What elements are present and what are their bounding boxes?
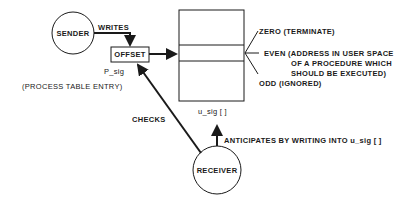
usig-caption: u_sig [ ] (198, 107, 227, 116)
usig-array-box (179, 10, 244, 101)
offset-label: OFFSET (111, 50, 149, 59)
odd-label: ODD (IGNORED) (259, 79, 322, 88)
even-label-2: OF A PROCEDURE WHICH (291, 59, 392, 68)
sender-label: SENDER (56, 29, 89, 38)
even-label-1: EVEN (ADDRESS IN USER SPACE (264, 49, 394, 58)
even-label-3: SHOULD BE EXECUTED) (291, 69, 386, 78)
fan-line-zero (245, 31, 258, 53)
fan-line-odd (245, 53, 258, 74)
writes-label: WRITES (98, 23, 129, 32)
checks-label: CHECKS (132, 115, 165, 124)
writes-edge (94, 33, 130, 45)
anticipates-label: ANTICIPATES BY WRITING INTO u_sig [ ] (224, 136, 382, 145)
psig-label: P_sig (104, 67, 124, 76)
receiver-label: RECEIVER (197, 166, 238, 175)
zero-label: ZERO (TERMINATE) (259, 27, 335, 36)
process-table-label: (PROCESS TABLE ENTRY) (22, 82, 123, 91)
checks-edge (138, 65, 201, 153)
